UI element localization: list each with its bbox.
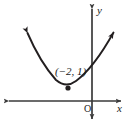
vertex-label: (−2, 1) — [55, 65, 87, 78]
x-axis-label: x — [116, 102, 122, 114]
y-axis-label: y — [96, 4, 102, 16]
origin-label: O — [84, 103, 91, 114]
coordinate-plane-svg: (−2, 1) O x y — [0, 0, 130, 126]
vertex-point-marker — [65, 85, 70, 90]
parabola-figure: (−2, 1) O x y — [0, 0, 130, 126]
